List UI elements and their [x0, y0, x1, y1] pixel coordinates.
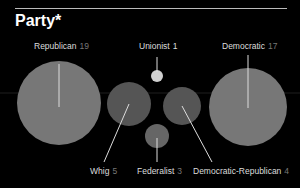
label-whig: Whig5 — [90, 166, 117, 176]
label-unionist: Unionist1 — [139, 41, 177, 51]
label-democratic: Democratic17 — [222, 41, 277, 51]
label-count: 4 — [284, 166, 289, 176]
label-name: Unionist — [139, 41, 170, 51]
label-count: 1 — [173, 41, 178, 51]
label-democratic-republican: Democratic-Republican4 — [193, 166, 289, 176]
label-republican: Republican19 — [34, 41, 89, 51]
bubble-chart — [0, 0, 300, 188]
label-name: Democratic — [222, 41, 265, 51]
label-count: 17 — [268, 41, 277, 51]
label-name: Whig — [90, 166, 109, 176]
label-federalist: Federalist3 — [137, 166, 182, 176]
label-name: Democratic-Republican — [193, 166, 281, 176]
label-name: Federalist — [137, 166, 174, 176]
label-count: 19 — [80, 41, 89, 51]
label-count: 3 — [177, 166, 182, 176]
label-count: 5 — [112, 166, 117, 176]
label-name: Republican — [34, 41, 77, 51]
